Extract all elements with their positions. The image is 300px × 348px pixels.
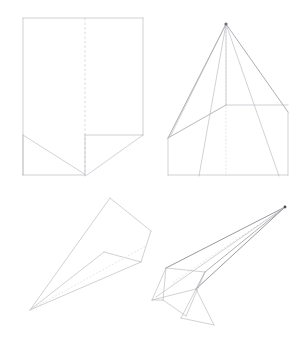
instruction-sheet: Paper Airplane Folding Instructions [0, 0, 300, 348]
step-3-folded-dart [30, 198, 151, 310]
folding-diagram-svg [0, 0, 300, 348]
step2-shape-fill [168, 24, 288, 175]
step3-wing-crease [30, 262, 141, 310]
step4-nose-point [284, 206, 287, 209]
step-4-finished-airplane [152, 206, 286, 325]
step3-dart-fill [30, 198, 151, 310]
step4-far-wing-edge [196, 207, 285, 289]
step-2-corners-folded [168, 22, 288, 176]
step4-near-wing-crease [172, 207, 285, 283]
step4-keel-right-edge [196, 289, 214, 325]
step4-fuselage-ridge [205, 207, 285, 272]
step4-near-wing-inner-edge [156, 207, 285, 297]
step-1-flat-sheet [23, 18, 143, 176]
step1-sheet-fill [23, 18, 143, 175]
step2-apex-point [224, 22, 227, 25]
step4-left-fin-bottom-edge [163, 300, 186, 316]
step4-tail-bottom-edge [181, 318, 214, 325]
